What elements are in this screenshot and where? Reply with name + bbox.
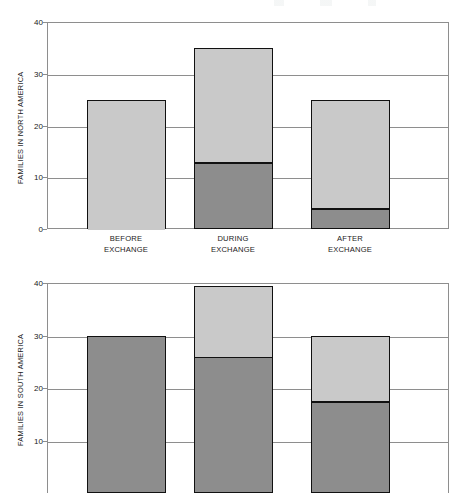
bar-segment-light: [195, 49, 272, 163]
bar-segment-dark: [195, 358, 272, 493]
y-tick-label: 40: [13, 18, 43, 27]
y-tick-mark: [43, 283, 47, 284]
bar-during: [194, 286, 273, 493]
y-tick-mark: [43, 177, 47, 178]
y-tick-label: 20: [13, 384, 43, 393]
bar-segment-light: [88, 101, 165, 230]
bar-segment-dark: [88, 337, 165, 493]
bar-after: [311, 100, 390, 229]
bar-segment-divider: [195, 357, 272, 359]
y-tick-mark: [43, 336, 47, 337]
bar-segment-dark: [195, 163, 272, 228]
scan-crop-artifact: [250, 0, 463, 6]
y-tick-mark: [43, 388, 47, 389]
y-tick-label: 0: [13, 225, 43, 234]
bar-segment-light: [312, 101, 389, 210]
y-tick-mark: [43, 229, 47, 230]
x-axis-category-label: BEFORE EXCHANGE: [66, 234, 186, 255]
y-tick-label: 30: [13, 331, 43, 340]
y-tick-mark: [43, 441, 47, 442]
y-tick-label: 10: [13, 436, 43, 445]
y-tick-label: 10: [13, 173, 43, 182]
bar-after: [311, 336, 390, 493]
y-tick-label: 30: [13, 69, 43, 78]
bar-segment-light: [195, 287, 272, 358]
chart-panel-south-america: FAMILIES IN SOUTH AMERICA 10203040: [0, 261, 463, 472]
bar-before: [87, 336, 166, 493]
bar-segment-divider: [312, 401, 389, 403]
x-axis-category-label: DURING EXCHANGE: [173, 234, 293, 255]
y-tick-mark: [43, 22, 47, 23]
bar-segment-light: [312, 337, 389, 403]
x-axis-category-label: AFTER EXCHANGE: [290, 234, 410, 255]
chart-panel-north-america: FAMILIES IN NORTH AMERICA 010203040 BEFO…: [0, 0, 463, 260]
y-tick-label: 20: [13, 121, 43, 130]
bar-during: [194, 48, 273, 229]
y-tick-mark: [43, 74, 47, 75]
bar-segment-divider: [195, 162, 272, 164]
bar-segment-dark: [312, 209, 389, 228]
bar-before: [87, 100, 166, 229]
bar-segment-dark: [312, 402, 389, 492]
y-tick-mark: [43, 126, 47, 127]
bar-segment-divider: [312, 208, 389, 210]
y-tick-label: 40: [13, 279, 43, 288]
